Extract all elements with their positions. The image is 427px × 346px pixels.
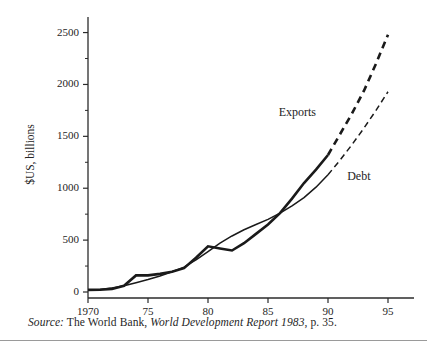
y-tick-label: 2000 — [57, 77, 80, 89]
series-line-debt-dashed — [328, 92, 388, 175]
source-report-title: World Development Report 1983 — [150, 316, 304, 328]
line-chart: 0500100015002000250019707580859095$US, b… — [0, 0, 427, 346]
y-tick-label: 500 — [63, 233, 80, 245]
series-line-exports-solid — [88, 155, 328, 290]
y-tick-label: 2500 — [57, 26, 80, 38]
x-tick-label: 95 — [383, 305, 395, 317]
y-axis-title: $US, billions — [24, 124, 37, 185]
source-label: Source: — [28, 316, 64, 328]
y-tick-label: 0 — [74, 285, 80, 297]
source-page: , p. 35. — [305, 316, 337, 328]
series-line-debt-solid — [88, 175, 328, 290]
source-publisher: The World Bank, — [64, 316, 150, 328]
y-tick-label: 1000 — [57, 181, 80, 193]
y-tick-label: 1500 — [57, 129, 80, 141]
bottom-divider — [0, 340, 427, 341]
series-label-exports: Exports — [279, 105, 317, 119]
series-label-debt: Debt — [347, 169, 371, 183]
series-line-exports-dashed — [328, 35, 388, 155]
source-citation: Source: The World Bank, World Developmen… — [28, 316, 337, 328]
figure-panel: 0500100015002000250019707580859095$US, b… — [0, 0, 427, 346]
